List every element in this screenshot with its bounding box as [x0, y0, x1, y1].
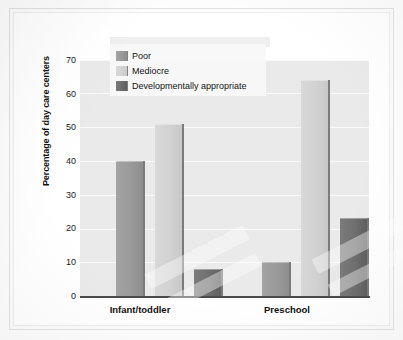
- bar-top-edge: [262, 262, 289, 263]
- y-tick-40: 40: [50, 157, 76, 166]
- x-category-preschool: Preschool: [227, 304, 347, 315]
- y-tick-20: 20: [50, 224, 76, 233]
- scanned-page: 70 60 50 40 30 20 10 0 Percentage of day…: [0, 0, 403, 340]
- legend-item-mediocre[interactable]: Mediocre: [116, 63, 262, 78]
- bar-right-edge: [328, 80, 330, 296]
- bar-preschool-mediocre[interactable]: [301, 80, 328, 296]
- legend-label-poor: Poor: [132, 51, 151, 61]
- bar-face: [301, 80, 328, 296]
- y-tick-30: 30: [50, 191, 76, 200]
- legend-item-developmentally-appropriate[interactable]: Developmentally appropriate: [116, 78, 262, 93]
- y-tick-60: 60: [50, 90, 76, 99]
- bar-face: [340, 218, 367, 296]
- bar-right-edge: [221, 269, 223, 296]
- bar-face: [155, 124, 182, 296]
- bar-infant-toddler-mediocre[interactable]: [155, 124, 182, 296]
- legend-item-poor[interactable]: Poor: [116, 48, 262, 63]
- bar-right-edge: [289, 262, 291, 296]
- y-tick-0: 0: [50, 292, 76, 301]
- y-tick-70: 70: [50, 56, 76, 65]
- bar-top-edge: [155, 124, 182, 125]
- legend-swatch-mediocre-icon: [116, 66, 127, 76]
- legend-label-mediocre: Mediocre: [132, 66, 169, 76]
- legend-swatch-poor-icon: [116, 51, 127, 61]
- bar-top-edge: [116, 161, 143, 162]
- bar-top-edge: [340, 218, 367, 219]
- bar-face: [194, 269, 221, 296]
- legend-label-developmentally-appropriate: Developmentally appropriate: [132, 81, 247, 91]
- x-category-infant-toddler: Infant/toddler: [80, 304, 200, 315]
- chart-legend: Poor Mediocre Developmentally appropriat…: [110, 44, 266, 96]
- y-tick-50: 50: [50, 123, 76, 132]
- bar-top-edge: [301, 80, 328, 81]
- bar-top-edge: [194, 269, 221, 270]
- y-tick-10: 10: [50, 258, 76, 267]
- figure-frame: 70 60 50 40 30 20 10 0 Percentage of day…: [9, 8, 394, 330]
- bar-right-edge: [182, 124, 184, 296]
- y-axis-ticks: 70 60 50 40 30 20 10 0: [48, 13, 76, 340]
- bar-infant-toddler-developmentally-appropriate[interactable]: [194, 269, 221, 296]
- bar-right-edge: [367, 218, 369, 296]
- bar-infant-toddler-poor[interactable]: [116, 161, 143, 296]
- bar-right-edge: [143, 161, 145, 296]
- bar-face: [116, 161, 143, 296]
- bar-preschool-developmentally-appropriate[interactable]: [340, 218, 367, 296]
- y-axis-label: Percentage of day care centers: [41, 26, 51, 216]
- bar-face: [262, 262, 289, 296]
- x-axis-line: [80, 296, 370, 298]
- legend-swatch-dev-icon: [116, 81, 127, 91]
- bar-preschool-poor[interactable]: [262, 262, 289, 296]
- figure-inner-border: 70 60 50 40 30 20 10 0 Percentage of day…: [13, 12, 390, 326]
